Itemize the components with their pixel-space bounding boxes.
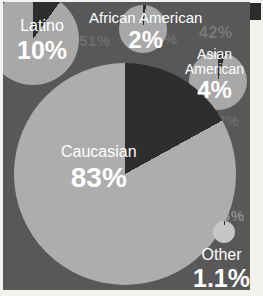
ghost-percent-42: 42%: [199, 24, 233, 42]
label-asian-american-line1: Asian: [185, 47, 244, 62]
label-asian-american-value: 4%: [185, 77, 244, 102]
label-african-american: African American 2%: [89, 10, 202, 52]
edge-marker-block: [250, 3, 261, 20]
label-asian-american-line2: American: [185, 62, 244, 77]
label-latino: Latino 10%: [17, 18, 67, 63]
label-caucasian-name: Caucasian: [61, 144, 137, 161]
pie-other: [213, 221, 235, 243]
label-asian-american: Asian American 4%: [185, 47, 244, 103]
label-latino-name: Latino: [17, 18, 67, 35]
label-other-name: Other: [193, 247, 250, 264]
label-caucasian: Caucasian 83%: [61, 144, 137, 192]
infographic-root: 51% 40% 42% 47% 46% Latino 10% African A…: [0, 0, 263, 296]
label-other-value: 1.1%: [193, 265, 250, 290]
label-caucasian-value: 83%: [61, 163, 137, 192]
chart-canvas: 51% 40% 42% 47% 46% Latino 10% African A…: [3, 2, 250, 290]
label-african-american-name: African American: [89, 10, 202, 26]
label-latino-value: 10%: [17, 37, 67, 63]
label-other: Other 1.1%: [193, 247, 250, 290]
